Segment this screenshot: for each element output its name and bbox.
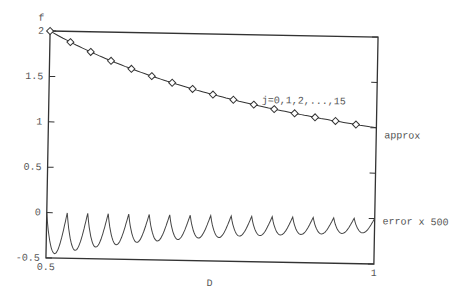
diamond-marker bbox=[230, 96, 237, 103]
diamond-marker bbox=[128, 65, 135, 72]
error-line bbox=[46, 213, 375, 260]
diamond-marker bbox=[47, 27, 54, 34]
diamond-marker bbox=[311, 114, 318, 121]
y-tick-label: 2 bbox=[38, 26, 44, 37]
chart: -0.500.511.52 0.51 j=0,1,2,...,15 approx… bbox=[0, 0, 465, 305]
diamond-marker bbox=[148, 73, 155, 80]
x-tick-label: 1 bbox=[371, 268, 377, 279]
diamond-marker bbox=[352, 121, 359, 128]
x-axis: 0.51 bbox=[37, 262, 377, 279]
diamond-marker bbox=[291, 110, 298, 117]
approx-line bbox=[48, 31, 378, 128]
diamond-marker bbox=[67, 39, 74, 46]
label-error: error x 500 bbox=[383, 216, 449, 228]
diamond-marker bbox=[271, 106, 278, 113]
y-tick-label: 1.5 bbox=[25, 71, 43, 82]
y-tick-label: 0.5 bbox=[23, 162, 41, 173]
x-tick-label: 0.5 bbox=[37, 262, 55, 273]
diamond-marker bbox=[107, 57, 114, 64]
diamond-marker bbox=[169, 79, 176, 86]
annotation-j: j=0,1,2,...,15 bbox=[262, 95, 346, 108]
approx-markers bbox=[45, 27, 361, 128]
y-tick-label: 1 bbox=[36, 117, 42, 128]
diamond-marker bbox=[189, 85, 196, 92]
diamond-marker bbox=[209, 91, 216, 98]
y-tick-label: 0 bbox=[35, 207, 41, 218]
diamond-marker bbox=[250, 101, 257, 108]
x-axis-label: D bbox=[206, 278, 212, 289]
diamond-marker bbox=[87, 48, 94, 55]
label-approx: approx bbox=[384, 130, 420, 142]
plot-frame bbox=[46, 31, 378, 264]
diamond-marker bbox=[332, 117, 339, 124]
y-axis-label: f bbox=[38, 13, 44, 24]
